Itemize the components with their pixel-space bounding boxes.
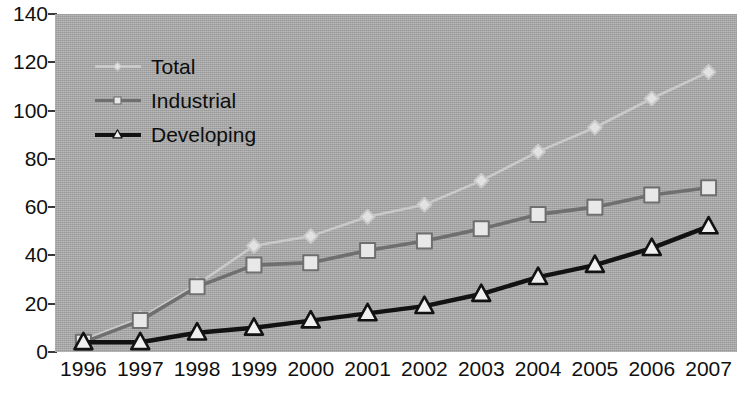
legend-swatch-triangle-icon — [95, 126, 141, 142]
x-axis-tick-label: 2002 — [396, 358, 453, 379]
x-axis-tick-label: 1997 — [112, 358, 169, 379]
y-axis-tick-label: 40 — [0, 244, 48, 265]
x-axis-tick-label: 2001 — [339, 358, 396, 379]
data-point-marker — [531, 145, 545, 159]
data-point-marker — [303, 255, 318, 270]
legend-item-total[interactable]: Total — [95, 52, 275, 80]
y-axis-tick-label: 60 — [0, 196, 48, 217]
data-point-marker — [304, 229, 318, 243]
chart-legend: TotalIndustrialDeveloping — [95, 52, 275, 154]
legend-marker-square-icon — [112, 95, 123, 106]
legend-swatch-square-icon — [95, 92, 141, 108]
data-point-marker — [417, 233, 432, 248]
data-point-marker — [360, 243, 375, 258]
data-point-marker — [587, 200, 602, 215]
y-axis-tick-label: 140 — [0, 3, 48, 24]
x-axis-tick-label: 2007 — [680, 358, 737, 379]
y-axis-tick-label: 80 — [0, 148, 48, 169]
data-point-marker — [645, 92, 659, 106]
y-axis-tick-label: 0 — [0, 341, 48, 362]
legend-marker-diamond-icon — [112, 61, 123, 72]
y-axis-tick-label: 100 — [0, 100, 48, 121]
x-axis-tick-label: 2004 — [510, 358, 567, 379]
legend-item-industrial[interactable]: Industrial — [95, 86, 275, 114]
y-axis-tick-label: 20 — [0, 293, 48, 314]
series-industrial — [76, 180, 716, 350]
y-axis-tick-label: 120 — [0, 51, 48, 72]
data-point-marker — [701, 180, 716, 195]
data-point-marker — [702, 65, 716, 79]
legend-label: Developing — [151, 124, 256, 145]
chart-figure: 020406080100120140 199619971998199920002… — [0, 0, 755, 402]
legend-label: Industrial — [151, 90, 236, 111]
data-point-marker — [588, 121, 602, 135]
x-axis-tick-label: 2000 — [282, 358, 339, 379]
legend-item-developing[interactable]: Developing — [95, 120, 275, 148]
x-axis-tick-label: 1998 — [169, 358, 226, 379]
data-point-marker — [644, 188, 659, 203]
series-line — [83, 226, 708, 342]
data-point-marker — [361, 210, 375, 224]
x-axis-tick-label: 1996 — [55, 358, 112, 379]
data-point-marker — [418, 198, 432, 212]
legend-marker-triangle-icon — [112, 129, 123, 140]
data-point-marker — [700, 217, 718, 233]
data-point-marker — [133, 313, 148, 328]
legend-label: Total — [151, 56, 195, 77]
data-point-marker — [190, 279, 205, 294]
legend-swatch-diamond-icon — [95, 58, 141, 74]
data-point-marker — [474, 174, 488, 188]
x-axis-tick-label: 2005 — [567, 358, 624, 379]
x-axis-tick-label: 2006 — [623, 358, 680, 379]
series-developing — [74, 217, 717, 349]
x-axis-tick-label: 2003 — [453, 358, 510, 379]
data-point-marker — [531, 207, 546, 222]
data-point-marker — [246, 258, 261, 273]
data-point-marker — [474, 221, 489, 236]
x-axis-tick-label: 1999 — [226, 358, 283, 379]
